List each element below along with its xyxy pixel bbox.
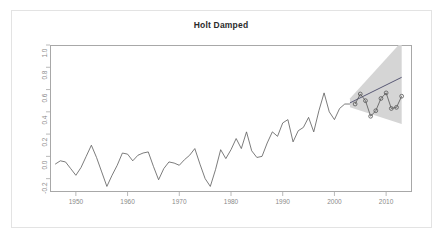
x-tick-label: 1980 bbox=[224, 198, 238, 205]
x-tick-label: 1950 bbox=[69, 198, 83, 205]
chart-page: Holt Damped 1.0 0.8 0.6 0.4 0.2 0.0 -0.2… bbox=[0, 0, 442, 239]
y-axis-tick-labels: 1.0 0.8 0.6 0.4 0.2 0.0 -0.2 bbox=[0, 45, 44, 192]
y-tick-label: 0.6 bbox=[41, 93, 48, 102]
x-tick-label: 1970 bbox=[172, 198, 186, 205]
y-tick-label: 0.4 bbox=[41, 116, 48, 125]
historical-line bbox=[55, 93, 350, 187]
y-tick-label: 0.0 bbox=[41, 160, 48, 169]
chart-title: Holt Damped bbox=[0, 20, 442, 30]
plot-frame-group bbox=[51, 46, 412, 192]
x-tick-label: 1960 bbox=[120, 198, 134, 205]
x-tick-label: 2010 bbox=[379, 198, 393, 205]
plot-border bbox=[51, 46, 412, 192]
plot-area bbox=[50, 45, 412, 192]
chart-canvas bbox=[50, 45, 412, 192]
y-tick-label: 1.0 bbox=[41, 49, 48, 58]
y-tick-label: -0.2 bbox=[41, 183, 48, 194]
x-tick-label: 2000 bbox=[327, 198, 341, 205]
y-tick-label: 0.8 bbox=[41, 71, 48, 80]
x-tick-label: 1990 bbox=[275, 198, 289, 205]
x-axis-tick-labels: 1950 1960 1970 1980 1990 2000 2010 bbox=[50, 196, 412, 210]
y-tick-label: 0.2 bbox=[41, 138, 48, 147]
